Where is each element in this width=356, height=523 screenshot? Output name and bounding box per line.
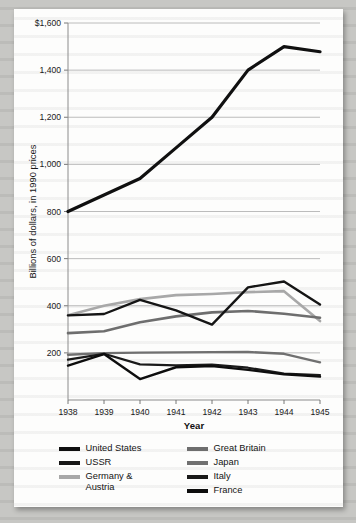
ytick-label-800: 800 (47, 207, 62, 217)
plot-area: 2004006008001,0001,2001,400$1,6001938193… (14, 9, 343, 429)
legend-label-great-britain: Great Britain (214, 443, 266, 454)
legend-swatch-france (187, 489, 208, 493)
legend-item-great-britain[interactable]: Great Britain (187, 443, 299, 454)
legend-swatch-germany-austria (59, 475, 80, 479)
legend-swatch-italy (187, 475, 208, 479)
ytick-label-1400: 1,400 (39, 65, 61, 75)
xtick-label-1943: 1943 (238, 407, 257, 417)
chart-legend: United States USSR Germany & Austria Gre… (14, 433, 343, 507)
legend-swatch-ussr (59, 461, 80, 465)
series-line-france (68, 354, 320, 379)
xtick-label-1942: 1942 (202, 407, 221, 417)
ytick-label-400: 400 (47, 301, 62, 311)
legend-item-germany-austria[interactable]: Germany & Austria (59, 471, 171, 493)
legend-swatch-japan (187, 461, 208, 465)
legend-swatch-united-states (59, 447, 80, 451)
chart-card: 2004006008001,0001,2001,400$1,6001938193… (14, 9, 343, 507)
y-axis-title: Billions of dollars, in 1990 prices (27, 144, 38, 278)
legend-item-ussr[interactable]: USSR (59, 457, 171, 468)
legend-item-france[interactable]: France (187, 485, 299, 496)
legend-column-right: Great Britain Japan Italy France (187, 443, 299, 507)
legend-label-united-states: United States (86, 443, 142, 454)
ytick-label-600: 600 (47, 254, 62, 264)
legend-item-italy[interactable]: Italy (187, 471, 299, 482)
legend-item-united-states[interactable]: United States (59, 443, 171, 454)
xtick-label-1940: 1940 (130, 407, 149, 417)
xtick-label-1938: 1938 (58, 407, 77, 417)
xtick-label-1944: 1944 (274, 407, 293, 417)
xtick-label-1945: 1945 (310, 407, 329, 417)
legend-label-france: France (214, 485, 243, 496)
series-line-united-states (68, 47, 320, 212)
ytick-label-1200: 1,200 (39, 112, 61, 122)
xtick-label-1939: 1939 (94, 407, 113, 417)
screenshot-root: 2004006008001,0001,2001,400$1,6001938193… (0, 0, 356, 523)
series-line-ussr (68, 281, 320, 324)
ytick-label-200: 200 (47, 348, 62, 358)
ytick-label-1000: 1,000 (39, 159, 61, 169)
x-axis-title: Year (184, 420, 205, 429)
line-chart: 2004006008001,0001,2001,400$1,6001938193… (14, 9, 343, 429)
legend-swatch-great-britain (187, 447, 208, 451)
legend-label-italy: Italy (214, 471, 231, 482)
series-line-italy (68, 354, 320, 375)
legend-label-germany-austria: Germany & Austria (86, 471, 133, 493)
ytick-label-1600: $1,600 (35, 18, 62, 28)
legend-item-japan[interactable]: Japan (187, 457, 299, 468)
legend-label-ussr: USSR (86, 457, 112, 468)
legend-column-left: United States USSR Germany & Austria (59, 443, 171, 507)
xtick-label-1941: 1941 (166, 407, 185, 417)
legend-label-japan: Japan (214, 457, 239, 468)
